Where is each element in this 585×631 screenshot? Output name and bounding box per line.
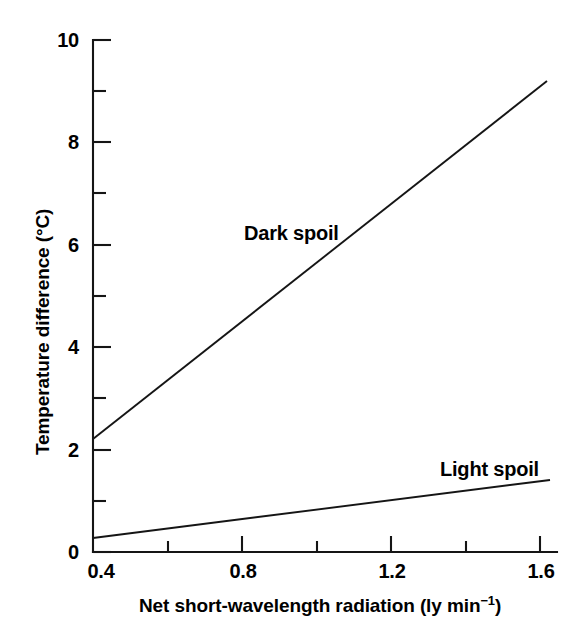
plot-canvas bbox=[0, 0, 585, 631]
series-label-light-spoil: Light spoil bbox=[440, 458, 539, 481]
x-axis-title: Net short-wavelength radiation (ly min−1… bbox=[139, 595, 501, 617]
x-axis-title-suffix: ) bbox=[495, 595, 501, 616]
y-axis-title: Temperature difference (°C) bbox=[32, 209, 54, 455]
y-minor-ticks bbox=[93, 91, 106, 501]
series-line-dark-spoil bbox=[93, 81, 547, 439]
y-axis-tick-label-10: 10 bbox=[43, 29, 79, 52]
x-axis-title-main: Net short-wavelength radiation (ly min bbox=[139, 595, 480, 616]
chart-figure: 10 8 6 4 2 0 0.4 0.8 1.2 1.6 Temperature… bbox=[0, 0, 585, 631]
x-axis-title-exponent: −1 bbox=[480, 593, 495, 608]
x-axis-tick-label-1p2: 1.2 bbox=[378, 560, 405, 583]
x-axis-tick-label-0p4: 0.4 bbox=[87, 560, 114, 583]
x-major-ticks bbox=[242, 536, 540, 552]
x-axis-tick-label-1p6: 1.6 bbox=[527, 560, 554, 583]
series-label-dark-spoil: Dark spoil bbox=[244, 222, 339, 245]
y-axis-tick-label-0: 0 bbox=[43, 541, 79, 564]
series-line-light-spoil bbox=[93, 480, 550, 538]
x-minor-ticks bbox=[168, 541, 466, 552]
y-axis-tick-label-8: 8 bbox=[43, 131, 79, 154]
x-axis-tick-label-0p8: 0.8 bbox=[229, 560, 256, 583]
